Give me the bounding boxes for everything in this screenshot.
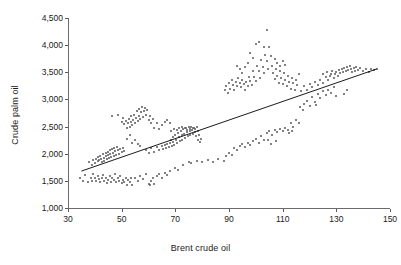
data-point [309, 105, 311, 107]
data-point [260, 135, 262, 137]
data-point [270, 143, 272, 145]
data-point [346, 66, 348, 68]
data-point [237, 77, 239, 79]
data-point [368, 71, 370, 73]
data-point [263, 46, 265, 48]
data-point [317, 84, 319, 86]
data-point [164, 172, 166, 174]
data-point [90, 177, 92, 179]
data-point [153, 183, 155, 185]
data-point [286, 85, 288, 87]
data-point [181, 139, 183, 141]
data-point [138, 115, 140, 117]
data-point [306, 89, 308, 91]
data-point [130, 177, 132, 179]
data-point [258, 70, 260, 72]
data-point-layer [0, 0, 401, 265]
data-point [87, 181, 89, 183]
data-point [244, 89, 246, 91]
data-point [282, 130, 284, 132]
data-point [99, 155, 101, 157]
data-point [109, 175, 111, 177]
data-point [287, 75, 289, 77]
data-point [115, 154, 117, 156]
data-point [129, 134, 131, 136]
data-point [190, 162, 192, 164]
data-point [322, 90, 324, 92]
data-point [283, 72, 285, 74]
data-point [117, 114, 119, 116]
data-point [150, 147, 152, 149]
data-point [139, 118, 141, 120]
data-point [189, 128, 191, 130]
data-point [325, 76, 327, 78]
data-point [197, 130, 199, 132]
data-point [100, 158, 102, 160]
data-point [241, 79, 243, 81]
data-point [168, 146, 170, 148]
data-point [282, 83, 284, 85]
data-point [196, 126, 198, 128]
data-point [258, 142, 260, 144]
data-point [339, 72, 341, 74]
data-point [172, 136, 174, 138]
data-point [302, 109, 304, 111]
data-point [132, 119, 134, 121]
data-point [153, 127, 155, 129]
data-point [292, 82, 294, 84]
data-point [241, 143, 243, 145]
data-point [92, 159, 94, 161]
data-point [306, 100, 308, 102]
data-point [249, 80, 251, 82]
data-point [113, 147, 115, 149]
data-point [376, 68, 378, 70]
data-point [331, 70, 333, 72]
data-point [341, 68, 343, 70]
data-point [201, 161, 203, 163]
data-point [103, 160, 105, 162]
data-point [267, 68, 269, 70]
data-point [309, 83, 311, 85]
data-point [121, 121, 123, 123]
data-point [91, 164, 93, 166]
data-point [128, 118, 130, 120]
data-point [178, 127, 180, 129]
data-point [288, 81, 290, 83]
data-point [343, 93, 345, 95]
data-point [212, 161, 214, 163]
data-point [279, 128, 281, 130]
data-point [116, 146, 118, 148]
data-point [349, 65, 351, 67]
data-point [103, 157, 105, 159]
data-point [126, 184, 128, 186]
data-point [338, 69, 340, 71]
data-point [166, 143, 168, 145]
data-point [181, 134, 183, 136]
data-point [227, 92, 229, 94]
data-point [335, 95, 337, 97]
data-point [176, 142, 178, 144]
data-point [275, 68, 277, 70]
data-point [156, 146, 158, 148]
data-point [296, 84, 298, 86]
data-point [118, 180, 120, 182]
data-point [142, 178, 144, 180]
data-point [319, 97, 321, 99]
data-point [268, 130, 270, 132]
data-point [276, 131, 278, 133]
data-point [272, 72, 274, 74]
data-point [158, 128, 160, 130]
data-point [343, 67, 345, 69]
data-point [184, 137, 186, 139]
data-point [131, 142, 133, 144]
data-point [152, 177, 154, 179]
data-point [196, 160, 198, 162]
data-point [174, 134, 176, 136]
data-point [330, 92, 332, 94]
data-point [101, 161, 103, 163]
data-point [135, 117, 137, 119]
data-point [148, 119, 150, 121]
data-point [84, 174, 86, 176]
data-point [241, 72, 243, 74]
data-point [149, 184, 151, 186]
